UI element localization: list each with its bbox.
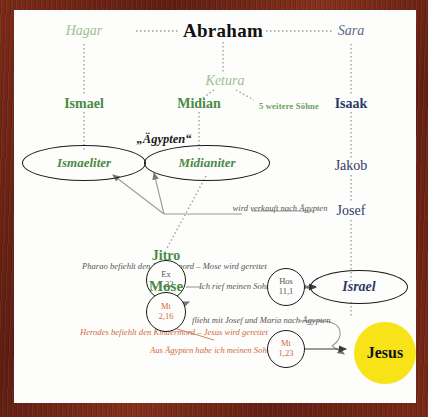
- link-midianiter-jitro: [166, 176, 206, 250]
- arrow-flight-jesus: [332, 346, 344, 354]
- person-midian[interactable]: Midian: [177, 97, 221, 112]
- person-isaak[interactable]: Isaak: [335, 97, 368, 112]
- group-jesus-label: Jesus: [367, 344, 403, 362]
- reference-mt-1-23[interactable]: Mt 1,23: [267, 330, 305, 368]
- person-ismael[interactable]: Ismael: [64, 97, 104, 112]
- group-midianiter[interactable]: Midianiter: [144, 145, 270, 181]
- diagram-canvas: Abraham Hagar Ketura Sara Ismael Midian …: [14, 10, 416, 403]
- group-israel[interactable]: Israel: [310, 270, 408, 304]
- link-ketura-sons: [236, 90, 254, 100]
- person-ketura[interactable]: Ketura: [206, 74, 245, 89]
- person-hagar[interactable]: Hagar: [66, 24, 103, 39]
- group-ismaeliter-label: Ismaeliter: [57, 155, 111, 171]
- reference-mt-kindermord-verse: 2,16: [159, 312, 174, 322]
- label-five-more-sons: 5 weitere Söhne: [259, 102, 319, 111]
- note-flight-to-egypt: flieht mit Josef und Maria nach Ägypten: [192, 315, 300, 326]
- label-egypt: „Ägypten“: [137, 133, 192, 146]
- note-herod-kindermord: Herodes befiehlt den Kindermord – Jesus …: [80, 327, 158, 338]
- note-hosea-quote: Ich rief meinen Sohn aus Ägypten: [199, 281, 265, 292]
- curve-flight-jesus: [324, 321, 340, 346]
- reference-mt-2-16[interactable]: Mt 2,16: [146, 292, 186, 332]
- note-sold-to-egypt: wird verkauft nach Ägypten: [232, 203, 328, 214]
- reference-mt-egypt-verse: 1,23: [279, 349, 294, 359]
- person-sara[interactable]: Sara: [338, 24, 364, 39]
- reference-hos-11-1[interactable]: Hos 11,1: [267, 268, 305, 306]
- group-midianiter-label: Midianiter: [178, 155, 235, 171]
- note-matthew-quote: Aus Ägypten habe ich meinen Sohn gerufen: [150, 345, 234, 356]
- picture-frame: Abraham Hagar Ketura Sara Ismael Midian …: [0, 0, 428, 417]
- person-jitro[interactable]: Jitro: [152, 249, 181, 264]
- group-israel-label: Israel: [342, 279, 375, 295]
- reference-hos-verse: 11,1: [279, 287, 294, 297]
- page-title: Abraham: [183, 21, 263, 41]
- group-ismaeliter[interactable]: Ismaeliter: [22, 145, 146, 181]
- person-jakob[interactable]: Jakob: [335, 159, 368, 174]
- person-mose[interactable]: Mose: [149, 279, 183, 295]
- person-josef[interactable]: Josef: [337, 204, 366, 219]
- group-jesus[interactable]: Jesus: [354, 322, 416, 384]
